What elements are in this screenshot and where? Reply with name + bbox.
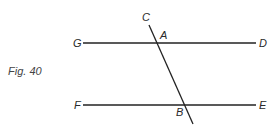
parallel-lines-diagram: C A G D F E B Fig. 40 (0, 0, 277, 132)
transversal-line (149, 25, 193, 124)
label-f: F (74, 99, 82, 111)
label-b: B (176, 106, 183, 118)
label-g: G (73, 37, 82, 49)
label-d: D (259, 37, 267, 49)
label-a: A (159, 29, 167, 41)
label-e: E (259, 99, 267, 111)
label-c: C (142, 11, 150, 23)
figure-caption: Fig. 40 (8, 65, 43, 77)
